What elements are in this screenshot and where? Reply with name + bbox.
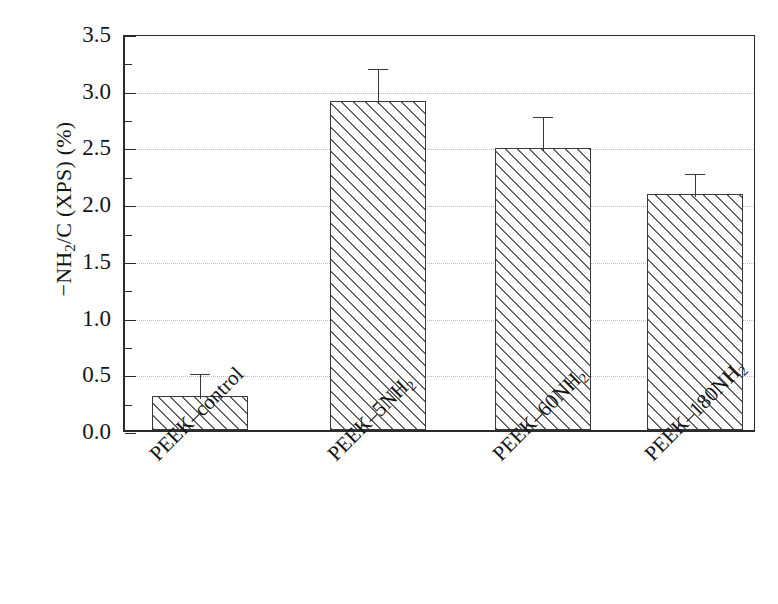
chart-figure: −NH2/C (XPS) (%) 0.00.51.01.52.02.53.03.… [0,0,778,604]
x-tick-label: PEEK–180NH2 [641,357,751,467]
x-tick-label-base: PEEK–control [145,362,249,466]
x-tick-label: PEEK–60NH2 [489,364,591,466]
x-tick-label-base: PEEK–5NH [323,375,413,465]
x-tick-label-base: PEEK–180NH [640,360,745,465]
x-tick-label: PEEK–5NH2 [324,372,419,467]
x-tick-label-base: PEEK–60NH [488,368,586,466]
x-tick-label: PEEK–control [146,363,247,464]
x-axis-tick-labels: PEEK–controlPEEK–5NH2PEEK–60NH2PEEK–180N… [0,0,778,604]
